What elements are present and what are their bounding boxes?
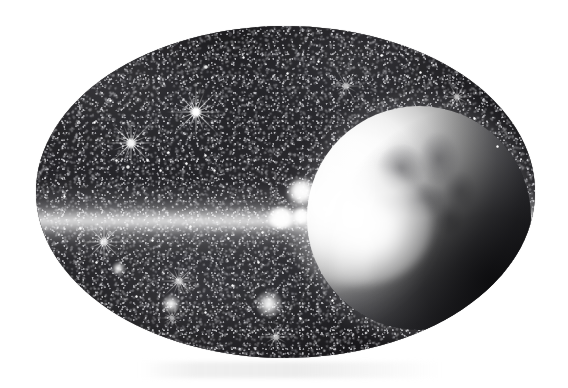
glow-star-lower-centre — [256, 291, 282, 317]
point-star — [115, 159, 118, 162]
point-star — [159, 169, 162, 172]
illustration-page — [0, 0, 568, 388]
point-star — [79, 227, 82, 230]
point-star — [227, 237, 230, 240]
point-star — [299, 317, 302, 320]
point-star — [286, 72, 289, 75]
point-star — [135, 295, 138, 298]
point-star — [257, 261, 260, 264]
glow-star-left-mid — [112, 262, 125, 275]
point-star — [204, 65, 208, 69]
point-star — [331, 299, 334, 302]
point-star — [204, 154, 207, 157]
point-star — [157, 77, 160, 80]
glow-star-lower-left — [162, 295, 180, 313]
point-star — [167, 151, 170, 154]
lens-flare-orb-3 — [288, 179, 315, 204]
lens-flare-orb-1 — [267, 207, 295, 229]
point-star — [93, 121, 96, 124]
point-star — [231, 284, 234, 287]
point-star — [95, 261, 98, 264]
point-star — [213, 169, 216, 172]
point-star — [473, 117, 476, 120]
point-star — [380, 54, 383, 57]
point-star — [63, 195, 66, 198]
point-star — [146, 159, 149, 162]
point-star — [496, 145, 499, 148]
point-star — [242, 56, 245, 59]
point-star — [204, 311, 207, 314]
point-star — [185, 162, 188, 165]
lens-flare-orb-2 — [292, 208, 310, 224]
point-star — [317, 60, 320, 63]
point-star — [419, 71, 422, 74]
oval-vignette-frame — [36, 26, 535, 358]
point-star — [261, 231, 264, 234]
point-star — [189, 225, 192, 228]
point-star — [109, 99, 112, 102]
point-star — [151, 239, 154, 242]
point-star — [126, 165, 130, 169]
lens-flare-vertical-spike — [336, 138, 370, 288]
scan-smudge — [140, 362, 440, 378]
